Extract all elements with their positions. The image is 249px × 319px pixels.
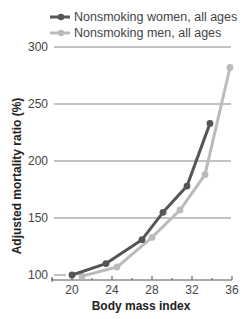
data-point-marker bbox=[160, 209, 167, 216]
data-point-marker bbox=[114, 264, 121, 271]
data-point-marker bbox=[177, 207, 184, 214]
y-tick-label: 250 bbox=[28, 97, 48, 111]
data-point-marker bbox=[184, 183, 191, 190]
data-point-marker bbox=[149, 234, 156, 241]
data-point-marker bbox=[202, 171, 209, 178]
data-point-marker bbox=[227, 64, 234, 71]
x-axis-title: Body mass index bbox=[92, 299, 191, 313]
legend-item-men: Nonsmoking men, all ages bbox=[50, 26, 221, 40]
legend: Nonsmoking women, all agesNonsmoking men… bbox=[50, 10, 237, 40]
legend-marker-icon bbox=[58, 14, 64, 20]
series-men bbox=[79, 64, 234, 279]
data-point-marker bbox=[69, 272, 76, 279]
x-tick-label: 36 bbox=[225, 283, 239, 297]
series-women bbox=[69, 120, 214, 278]
x-tick-label: 24 bbox=[105, 283, 119, 297]
data-point-marker bbox=[207, 120, 214, 127]
data-point-marker bbox=[103, 260, 110, 267]
x-tick-label: 20 bbox=[65, 283, 79, 297]
y-tick-label: 200 bbox=[28, 154, 48, 168]
x-axis: 2024283236 bbox=[52, 276, 239, 297]
plot-series bbox=[69, 64, 234, 279]
y-tick-label: 300 bbox=[28, 40, 48, 54]
data-point-marker bbox=[139, 236, 146, 243]
y-tick-label: 150 bbox=[28, 211, 48, 225]
legend-item-women: Nonsmoking women, all ages bbox=[50, 10, 237, 24]
chart: Nonsmoking women, all agesNonsmoking men… bbox=[0, 0, 249, 319]
legend-label: Nonsmoking women, all ages bbox=[74, 10, 237, 24]
y-axis-title: Adjusted mortality ratio (%) bbox=[10, 98, 24, 255]
legend-label: Nonsmoking men, all ages bbox=[74, 26, 221, 40]
series-line bbox=[82, 68, 230, 277]
y-tick-label: 100 bbox=[28, 268, 48, 282]
legend-marker-icon bbox=[58, 30, 64, 36]
y-axis-ticks: 100150200250300 bbox=[28, 40, 48, 282]
x-tick-label: 32 bbox=[185, 283, 199, 297]
x-tick-label: 28 bbox=[145, 283, 159, 297]
